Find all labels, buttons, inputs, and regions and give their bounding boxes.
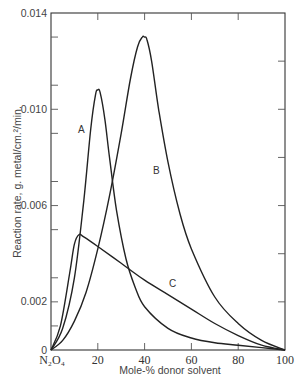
y-tick-label: 0.010 (21, 103, 47, 115)
curve-a (51, 89, 285, 350)
curves (51, 36, 285, 350)
axis-labels: 00.0020.0060.0100.014N₂O₄20406080100ABC (21, 7, 294, 368)
y-tick-label: 0.014 (21, 7, 47, 19)
curve-b (51, 36, 285, 350)
curve-label-c: C (169, 278, 176, 289)
y-tick-label: 0.006 (21, 199, 47, 211)
curve-label-a: A (78, 124, 85, 135)
x-tick-label: 20 (92, 353, 104, 367)
y-axis-title: Reaction rate, g. metal/cm.²/min. (11, 106, 23, 258)
curve-label-b: B (153, 165, 160, 176)
x-tick-label: 80 (232, 353, 244, 367)
x-tick-label: 100 (276, 353, 294, 367)
chart-canvas: 00.0020.0060.0100.014N₂O₄20406080100ABC … (0, 0, 299, 380)
x-axis-title: Mole-% donor solvent (119, 364, 221, 376)
y-tick-label: 0.002 (21, 295, 47, 307)
x-origin-label: N₂O₄ (39, 353, 65, 367)
